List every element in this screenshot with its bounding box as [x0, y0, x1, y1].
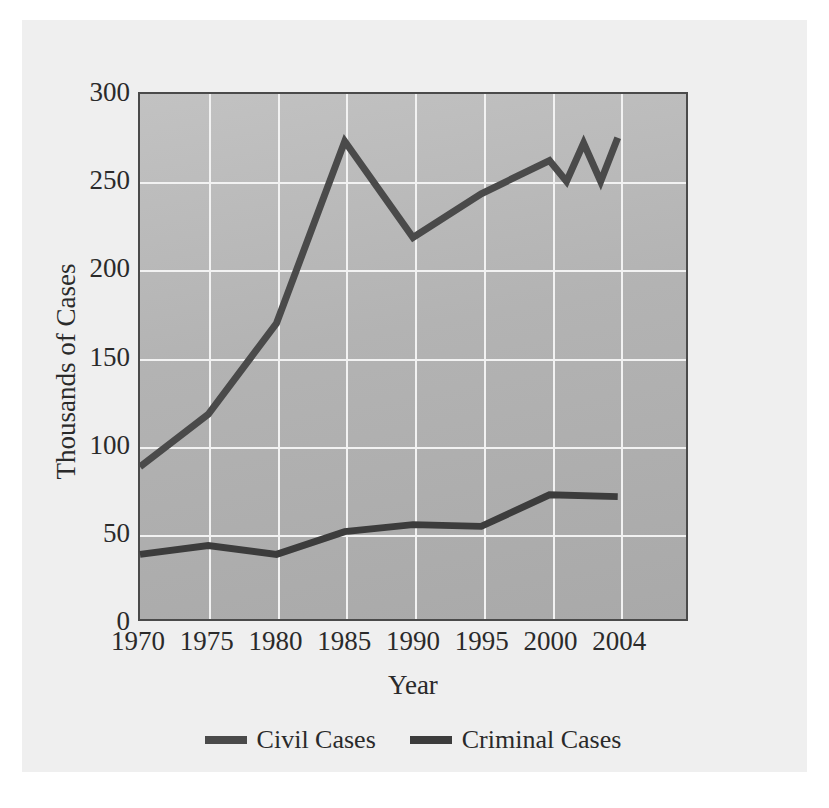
y-axis-tick-labels: 050100150200250300	[52, 20, 130, 772]
series-line	[140, 138, 618, 467]
chart-legend: Civil Cases Criminal Cases	[138, 725, 688, 755]
legend-label: Civil Cases	[257, 725, 376, 755]
x-axis-tick-label: 1985	[317, 628, 371, 655]
series-line	[140, 495, 618, 555]
x-axis-tick-label: 1995	[455, 628, 509, 655]
legend-label: Criminal Cases	[462, 725, 622, 755]
plot-area	[138, 92, 688, 621]
legend-swatch-icon	[410, 736, 452, 744]
x-axis-tick-label: 1970	[111, 628, 165, 655]
chart-figure: Thousands of Cases 050100150200250300 19…	[22, 20, 807, 772]
y-axis-tick-label: 200	[90, 255, 131, 282]
x-axis-tick-label: 1990	[386, 628, 440, 655]
y-axis-tick-label: 100	[90, 432, 131, 459]
legend-item-criminal-cases[interactable]: Criminal Cases	[410, 725, 622, 755]
y-axis-tick-label: 50	[103, 520, 130, 547]
series-lines	[140, 94, 686, 619]
legend-swatch-icon	[205, 736, 247, 744]
x-axis-tick-label: 1980	[249, 628, 303, 655]
legend-item-civil-cases[interactable]: Civil Cases	[205, 725, 376, 755]
x-axis-tick-label: 1975	[180, 628, 234, 655]
y-axis-tick-label: 300	[90, 79, 131, 106]
x-axis-tick-label: 2004	[592, 628, 646, 655]
x-axis-tick-label: 2000	[524, 628, 578, 655]
x-axis-title: Year	[138, 670, 688, 701]
y-axis-tick-label: 150	[90, 344, 131, 371]
y-axis-tick-label: 250	[90, 167, 131, 194]
